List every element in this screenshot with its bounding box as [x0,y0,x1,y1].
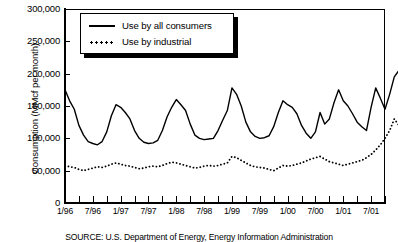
legend-item-all-consumers: Use by all consumers [89,19,212,33]
legend-item-industrial: Use by industrial [89,35,191,49]
source-caption: SOURCE: U.S. Department of Energy, Energ… [0,232,398,242]
legend-dotted-line-icon [89,41,115,44]
legend-label-industrial: Use by industrial [122,37,191,47]
chart-figure: Consumption (MMcf per month) 050,000100,… [0,0,398,242]
line-use-by-industrial [65,118,398,171]
legend: Use by all consumers Use by industrial [80,13,234,54]
legend-solid-line-icon [89,25,115,27]
line-use-by-all-consumers [65,45,398,145]
legend-label-all-consumers: Use by all consumers [122,21,212,31]
